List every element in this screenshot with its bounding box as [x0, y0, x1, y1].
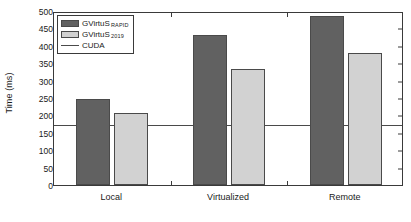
chart-legend: GVirtuSRAPIDGVirtuS2019CUDA	[57, 15, 134, 54]
y-axis-tick-label: 0	[19, 181, 53, 191]
bar-virtualized-2019	[231, 69, 265, 185]
x-axis-tick-label: Virtualized	[207, 192, 249, 202]
legend-swatch-icon	[61, 20, 79, 27]
legend-item-rapid: GVirtuSRAPID	[61, 18, 129, 29]
x-axis-tick-mark	[287, 181, 288, 185]
y-axis-ticks: 050100150200250300350400450500	[12, 12, 53, 186]
legend-label-subscript: 2019	[110, 33, 124, 40]
y-axis-tick-mark-right	[398, 64, 402, 65]
bar-remote-rapid	[310, 16, 344, 185]
y-axis-tick-mark-right	[398, 29, 402, 30]
y-axis-tick-mark-right	[398, 151, 402, 152]
bar-chart-figure: Time (ms) 050100150200250300350400450500…	[0, 0, 411, 222]
y-axis-tick-mark-right	[398, 133, 402, 134]
legend-label: CUDA	[82, 41, 105, 50]
y-axis-tick-mark-right	[398, 81, 402, 82]
bar-local-2019	[114, 113, 148, 185]
legend-item-2019: GVirtuS2019	[61, 29, 129, 40]
y-axis-tick-label: 250	[19, 94, 53, 104]
bar-remote-2019	[348, 53, 382, 185]
x-axis-tick-label: Remote	[329, 192, 361, 202]
legend-label: GVirtuS	[82, 30, 110, 39]
legend-label-subscript: RAPID	[110, 22, 129, 29]
y-axis-tick-mark-right	[398, 168, 402, 169]
y-axis-tick-label: 50	[19, 164, 53, 174]
y-axis-tick-label: 500	[19, 7, 53, 17]
y-axis-tick-label: 450	[19, 24, 53, 34]
y-axis-tick-label: 100	[19, 146, 53, 156]
y-axis-tick-label: 350	[19, 59, 53, 69]
y-axis-tick-mark-right	[398, 99, 402, 100]
y-axis-tick-mark-right	[398, 46, 402, 47]
x-axis-tick-mark-top	[287, 13, 288, 17]
legend-swatch-icon	[61, 31, 79, 38]
y-axis-tick-label: 300	[19, 77, 53, 87]
y-axis-tick-label: 150	[19, 129, 53, 139]
legend-line-icon	[61, 42, 79, 49]
x-axis-tick-mark-top	[171, 13, 172, 17]
x-axis-tick-mark	[171, 181, 172, 185]
bar-virtualized-rapid	[193, 35, 227, 185]
bar-local-rapid	[76, 99, 110, 185]
y-axis-tick-label: 200	[19, 111, 53, 121]
legend-label: GVirtuS	[82, 19, 110, 28]
y-axis-tick-label: 400	[19, 42, 53, 52]
legend-item-cuda: CUDA	[61, 40, 129, 51]
y-axis-tick-mark-right	[398, 116, 402, 117]
x-axis-tick-label: Local	[101, 192, 123, 202]
